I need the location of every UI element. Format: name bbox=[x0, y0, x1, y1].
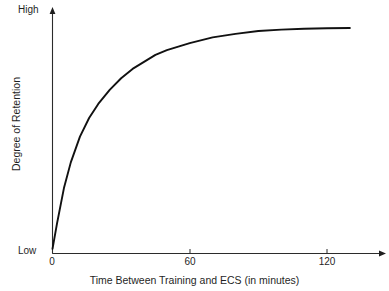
y-axis-arrow-icon bbox=[50, 7, 56, 14]
x-axis-arrow-icon bbox=[379, 251, 386, 257]
chart-figure: High Low Degree of Retention Time Betwee… bbox=[0, 0, 389, 291]
plot-area bbox=[0, 0, 389, 291]
retention-curve bbox=[53, 28, 350, 249]
